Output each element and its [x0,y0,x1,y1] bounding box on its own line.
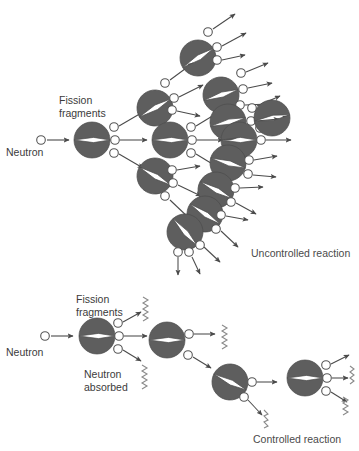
neutron-label-bottom: Neutron [6,346,44,358]
neutron-particle [174,248,183,257]
neutron-particle [184,351,193,360]
fission-fragments-label-bottom-line2: fragments [76,306,123,318]
neutron-particle [37,136,46,145]
fission-chain-reaction-figure: Neutron Fission fragments Uncontrolled r… [0,0,359,451]
neutron-particle [161,192,170,201]
neutron-particle [213,56,222,65]
diagram-canvas: Neutron Fission fragments Uncontrolled r… [0,0,359,451]
fission-fragments-label-top-line1: Fission [59,94,92,106]
neutron-particle [217,211,226,220]
neutron-particle [41,332,50,341]
neutron-particle [115,332,124,341]
neutron-particle [185,248,194,257]
neutron-particle [322,361,331,370]
neutron-particle [248,378,257,387]
neutron-particle [322,387,331,396]
neutron-particle [110,123,119,132]
neutron-particle [240,393,249,402]
neutron-particle [212,225,221,234]
neutron-particle [188,136,197,145]
controlled-reaction-caption: Controlled reaction [253,433,341,445]
neutron-particle [111,136,120,145]
neutron-particle [237,69,246,78]
neutron-particle [196,241,205,250]
neutron-particle [204,28,213,37]
neutron-particle [231,184,240,193]
neutron-particle [244,170,253,179]
neutron-particle [185,330,194,339]
neutron-label-top: Neutron [6,146,44,158]
neutron-particle [110,149,119,158]
neutron-absorbed-label-line2: absorbed [84,381,128,393]
neutron-particle [245,156,254,165]
neutron-particle [168,106,177,115]
uncontrolled-reaction-caption: Uncontrolled reaction [251,247,350,259]
neutron-particle [239,85,248,94]
neutron-particle [227,198,236,207]
fission-fragments-label-bottom-line1: Fission [76,293,109,305]
neutron-particle [257,136,266,145]
neutron-particle [213,43,222,52]
neutron-particle [114,345,123,354]
neutron-particle [169,179,178,188]
neutron-particle [323,374,332,383]
neutron-particle [170,94,179,103]
fission-fragments-label-top-line2: fragments [59,107,106,119]
neutron-particle [114,319,123,328]
neutron-particle [161,79,170,88]
neutron-particle [187,149,196,158]
neutron-absorbed-label-line1: Neutron [84,368,122,380]
neutron-particle [168,166,177,175]
neutron-particle [187,123,196,132]
